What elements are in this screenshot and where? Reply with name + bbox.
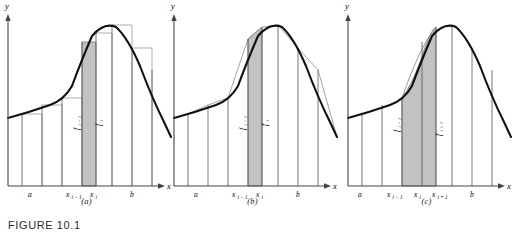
x-axis-arrowhead: [498, 183, 505, 188]
y-axis-arrowhead: [5, 14, 10, 21]
x-axis-label: x: [506, 181, 511, 191]
shaded-parabolic-region: [402, 27, 436, 186]
shaded-rectangle-fi: [82, 42, 96, 186]
function-label-fi-minus-1: f i − 1: [238, 116, 248, 130]
y-axis-label: y: [4, 1, 9, 11]
function-label-fi-minus-1: f i − 1: [72, 116, 82, 130]
panel-b-plot: y x a x i − 1 x i b f i − 1 f i: [166, 0, 339, 200]
shaded-trapezoid-fi: [248, 27, 262, 186]
svg-text:i − 1: i − 1: [397, 118, 402, 128]
svg-text:i − 1: i − 1: [243, 116, 248, 126]
panel-c-plot: y x a x i − 1 x i x i + 1 b f i − 1 f i: [340, 0, 513, 200]
function-label-fi-minus-1: f i − 1: [392, 118, 402, 132]
panel-a-rectangle-rule: y x a x i − 1 x i b f i − 1 f i (a): [0, 0, 173, 215]
y-axis-arrowhead: [171, 14, 176, 21]
figure-caption: FIGURE 10.1: [8, 219, 81, 231]
svg-text:i: i: [265, 120, 270, 122]
svg-text:f: f: [238, 127, 247, 130]
panel-a-plot: y x a x i − 1 x i b f i − 1 f i: [0, 0, 173, 200]
panel-b-trapezoidal-rule: y x a x i − 1 x i b f i − 1 f i (b): [166, 0, 339, 215]
y-axis-arrowhead: [345, 14, 350, 21]
panel-c-label: (c): [340, 196, 513, 206]
panel-b-label: (b): [166, 196, 339, 206]
svg-text:i + 1: i + 1: [439, 122, 444, 132]
svg-text:f: f: [392, 129, 401, 132]
x-axis-arrowhead: [158, 183, 165, 188]
x-axis-label: x: [332, 181, 337, 191]
y-axis-label: y: [344, 1, 349, 11]
x-axis-arrowhead: [324, 183, 331, 188]
y-axis-label: y: [170, 1, 175, 11]
svg-text:i: i: [99, 120, 104, 122]
panel-a-label: (a): [0, 196, 173, 206]
svg-text:f: f: [72, 127, 81, 130]
panel-c-simpsons-rule: y x a x i − 1 x i x i + 1 b f i − 1 f i: [340, 0, 513, 215]
figure-10-1: y x a x i − 1 x i b f i − 1 f i (a): [0, 0, 518, 239]
svg-text:i − 1: i − 1: [77, 116, 82, 126]
